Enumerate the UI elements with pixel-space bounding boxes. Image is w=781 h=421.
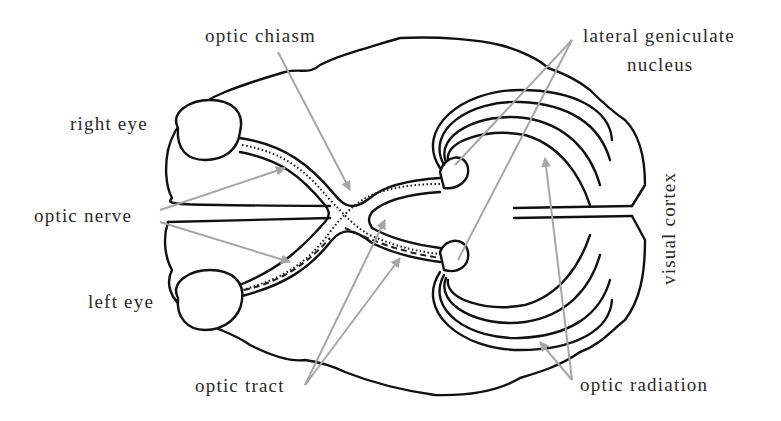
pointer-optic-nerve-lower xyxy=(160,222,290,262)
lateral-geniculate-nucleus-shapes xyxy=(440,157,468,271)
right-eye-shape xyxy=(176,100,241,160)
pointer-optic-tract-1 xyxy=(305,220,385,385)
label-lateral-geniculate-nucleus: nucleus xyxy=(627,54,693,75)
pointer-optic-nerve-upper xyxy=(160,168,285,210)
label-optic-chiasm: optic chiasm xyxy=(205,25,316,46)
optic-pathway xyxy=(240,138,440,296)
label-right-eye: right eye xyxy=(70,113,148,134)
left-eye-shape xyxy=(176,270,242,330)
label-optic-radiation: optic radiation xyxy=(580,374,708,395)
pointer-optic-tract-2 xyxy=(305,258,400,385)
label-lateral-geniculate: lateral geniculate xyxy=(583,25,735,46)
label-optic-nerve: optic nerve xyxy=(34,205,132,226)
optic-radiation-arcs xyxy=(433,90,612,350)
visual-pathway-diagram: optic chiasm lateral geniculate nucleus … xyxy=(0,0,781,421)
label-left-eye: left eye xyxy=(88,291,154,312)
label-optic-tract: optic tract xyxy=(195,375,285,396)
label-visual-cortex: visual cortex xyxy=(658,172,679,285)
pointer-lgn-upper xyxy=(455,40,572,165)
pointer-lines xyxy=(160,40,572,385)
